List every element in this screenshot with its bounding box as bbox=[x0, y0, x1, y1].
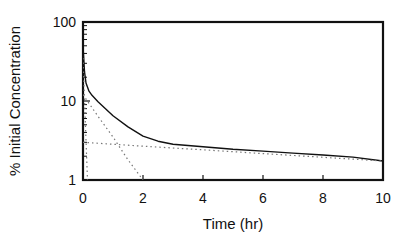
series-line-2 bbox=[83, 95, 143, 180]
series-line-0 bbox=[83, 46, 383, 161]
x-tick-label: 8 bbox=[319, 190, 327, 206]
y-axis-title: % Initial Concentration bbox=[6, 26, 23, 176]
x-tick-label: 0 bbox=[79, 190, 87, 206]
x-tick-label: 10 bbox=[375, 190, 391, 206]
series-line-3 bbox=[83, 142, 383, 161]
y-tick-label: 1 bbox=[68, 172, 76, 188]
y-axis-ticks: 110100 bbox=[53, 14, 90, 188]
x-tick-label: 4 bbox=[199, 190, 207, 206]
series-layer bbox=[83, 46, 383, 180]
x-tick-label: 6 bbox=[259, 190, 267, 206]
x-axis-title: Time (hr) bbox=[203, 215, 263, 232]
pk-concentration-chart: 0246810 110100 Time (hr) % Initial Conce… bbox=[0, 0, 405, 250]
y-tick-label: 10 bbox=[60, 93, 76, 109]
x-tick-label: 2 bbox=[139, 190, 147, 206]
y-tick-label: 100 bbox=[53, 14, 77, 30]
